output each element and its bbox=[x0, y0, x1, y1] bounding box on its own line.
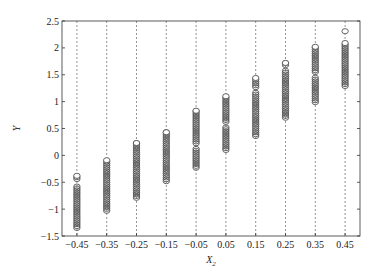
y-tick-label: −0.5 bbox=[41, 177, 59, 188]
x-tick-label: −0.35 bbox=[95, 239, 118, 250]
y-tick-label: 2.5 bbox=[47, 16, 60, 27]
data-point bbox=[193, 108, 199, 113]
data-point bbox=[312, 44, 318, 49]
scatter-chart: −0.45−0.35−0.25−0.15−0.050.050.150.250.3… bbox=[0, 0, 376, 276]
y-tick-label: 1.5 bbox=[47, 69, 60, 80]
y-tick-label: −1.5 bbox=[41, 231, 59, 242]
x-tick-label: 0.15 bbox=[247, 239, 265, 250]
x-tick-label: 0.05 bbox=[217, 239, 235, 250]
y-tick-label: −1 bbox=[48, 204, 59, 215]
data-point bbox=[133, 140, 139, 145]
y-tick-label: 0 bbox=[54, 150, 59, 161]
x-tick-label: 0.25 bbox=[277, 239, 295, 250]
x-tick-label: 0.35 bbox=[307, 239, 325, 250]
data-point bbox=[104, 158, 110, 163]
data-point bbox=[253, 75, 259, 80]
outlier-point bbox=[342, 29, 348, 34]
data-point bbox=[342, 40, 348, 45]
x-tick-label: −0.05 bbox=[185, 239, 208, 250]
x-tick-label: −0.15 bbox=[155, 239, 178, 250]
data-point bbox=[223, 94, 229, 99]
data-point bbox=[282, 60, 288, 65]
y-tick-label: 2 bbox=[54, 42, 59, 53]
data-point bbox=[74, 173, 80, 178]
x-tick-label: −0.45 bbox=[65, 239, 88, 250]
x-tick-label: 0.45 bbox=[336, 239, 354, 250]
data-point bbox=[163, 130, 169, 135]
y-tick-label: 1 bbox=[54, 96, 59, 107]
x-tick-label: −0.25 bbox=[125, 239, 148, 250]
y-tick-label: 0.5 bbox=[47, 123, 60, 134]
